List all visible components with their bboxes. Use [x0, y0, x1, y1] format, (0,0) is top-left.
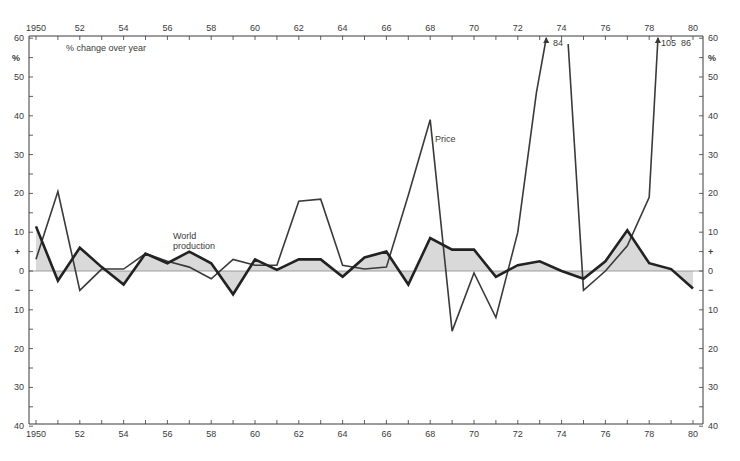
x-tick-label-bottom: 60	[250, 429, 260, 439]
x-tick-label-top: 72	[513, 23, 523, 33]
y-tick-label-right: 10	[708, 227, 718, 237]
y-marker-left: %	[12, 53, 20, 63]
y-tick-label-right: 30	[708, 150, 718, 160]
y-marker-left: +	[15, 247, 20, 257]
x-tick-label-bottom: 54	[119, 429, 129, 439]
x-tick-label-top: 56	[162, 23, 172, 33]
x-tick-label-top: 76	[600, 23, 610, 33]
y-tick-label-right: 40	[708, 111, 718, 121]
off-scale-label-84: 84	[553, 38, 563, 48]
price-series-line	[36, 37, 661, 331]
off-scale-label-86: 86	[681, 38, 691, 48]
x-tick-label-top: 78	[644, 23, 654, 33]
chart-svg: 1950525456586062646668707274767880195052…	[0, 0, 740, 461]
x-tick-label-top: 80	[688, 23, 698, 33]
y-tick-label-left: 0	[19, 266, 24, 276]
x-tick-label-bottom: 52	[75, 429, 85, 439]
off-scale-arrow-1973-icon	[543, 37, 549, 43]
x-tick-label-top: 58	[206, 23, 216, 33]
y-tick-label-left: 40	[14, 421, 24, 431]
x-tick-label-bottom: 62	[294, 429, 304, 439]
x-tick-label-bottom: 58	[206, 429, 216, 439]
y-tick-label-right: 50	[708, 72, 718, 82]
off-scale-label-105: 105	[661, 38, 676, 48]
x-tick-label-bottom: 56	[162, 429, 172, 439]
world-production-label-1: World	[173, 231, 196, 241]
x-tick-label-bottom: 80	[688, 429, 698, 439]
y-marker-right: %	[708, 53, 716, 63]
y-tick-label-left: 10	[14, 227, 24, 237]
world-production-label-2: production	[173, 241, 215, 251]
x-tick-label-top: 74	[557, 23, 567, 33]
y-tick-label-left: 30	[14, 150, 24, 160]
x-tick-label-top: 1950	[26, 23, 46, 33]
x-tick-label-bottom: 76	[600, 429, 610, 439]
y-marker-left: −	[15, 285, 20, 295]
x-tick-label-bottom: 66	[381, 429, 391, 439]
x-tick-label-top: 68	[425, 23, 435, 33]
x-tick-label-top: 70	[469, 23, 479, 33]
x-tick-label-top: 60	[250, 23, 260, 33]
y-marker-right: +	[708, 247, 713, 257]
price-label: Price	[435, 134, 456, 144]
y-tick-label-left: 10	[14, 305, 24, 315]
x-tick-label-top: 54	[119, 23, 129, 33]
y-marker-right: −	[708, 285, 713, 295]
y-tick-label-left: 50	[14, 72, 24, 82]
x-tick-label-bottom: 74	[557, 429, 567, 439]
x-tick-label-top: 64	[338, 23, 348, 33]
y-tick-label-right: 0	[708, 266, 713, 276]
x-tick-label-bottom: 64	[338, 429, 348, 439]
x-tick-label-top: 52	[75, 23, 85, 33]
chart: 1950525456586062646668707274767880195052…	[0, 0, 740, 461]
y-tick-label-right: 10	[708, 305, 718, 315]
x-tick-label-top: 62	[294, 23, 304, 33]
y-tick-label-right: 40	[708, 421, 718, 431]
y-tick-label-left: 30	[14, 382, 24, 392]
y-tick-label-right: 20	[708, 344, 718, 354]
y-tick-label-right: 30	[708, 382, 718, 392]
x-tick-label-bottom: 70	[469, 429, 479, 439]
x-tick-label-bottom: 1950	[26, 429, 46, 439]
x-tick-label-bottom: 78	[644, 429, 654, 439]
x-tick-label-bottom: 72	[513, 429, 523, 439]
y-tick-label-left: 20	[14, 344, 24, 354]
annotations: % change over year World production Pric…	[66, 38, 691, 251]
x-tick-label-bottom: 68	[425, 429, 435, 439]
y-tick-label-right: 60	[708, 33, 718, 43]
axes: 1950525456586062646668707274767880195052…	[12, 23, 718, 439]
x-tick-label-top: 66	[381, 23, 391, 33]
y-tick-label-left: 20	[14, 188, 24, 198]
price-line-1950-1973	[36, 38, 546, 331]
y-tick-label-left: 60	[14, 33, 24, 43]
y-tick-label-right: 20	[708, 188, 718, 198]
y-tick-label-left: 40	[14, 111, 24, 121]
subtitle-label: % change over year	[66, 43, 146, 53]
